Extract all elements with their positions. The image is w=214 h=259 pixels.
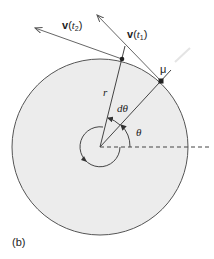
label-v-t1: v(t1): [127, 29, 147, 41]
diagram-svg: [0, 0, 214, 259]
label-dtheta: dθ: [117, 103, 128, 114]
faint-line: [175, 48, 190, 62]
label-r: r: [103, 87, 107, 98]
point-t2: [120, 57, 125, 62]
label-mu: μ: [160, 64, 166, 75]
label-v-t2: v(t2): [62, 20, 82, 32]
panel-label: (b): [12, 237, 25, 248]
point-t1-mu: [159, 79, 164, 84]
paren-close: ): [144, 28, 148, 40]
label-theta: θ: [136, 127, 141, 138]
paren-close: ): [79, 19, 83, 31]
velocity-vector-t2: [35, 28, 122, 59]
orbit-diagram: v(t2) v(t1) μ r dθ θ (b): [0, 0, 214, 259]
